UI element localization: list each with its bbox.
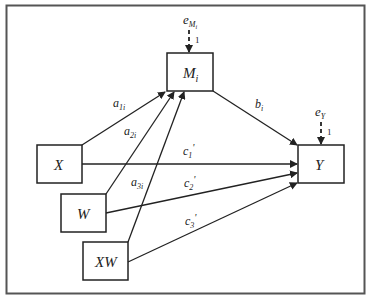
error-y-weight: 1 bbox=[327, 127, 332, 137]
error-m-weight: 1 bbox=[195, 35, 200, 45]
node-w-label: W bbox=[77, 206, 91, 222]
path-diagram: Mi X W XW Y a1i a2i a3i bi c1' c2' c3' e… bbox=[0, 0, 370, 298]
node-xw-label: XW bbox=[94, 254, 118, 270]
node-x-label: X bbox=[53, 157, 64, 173]
